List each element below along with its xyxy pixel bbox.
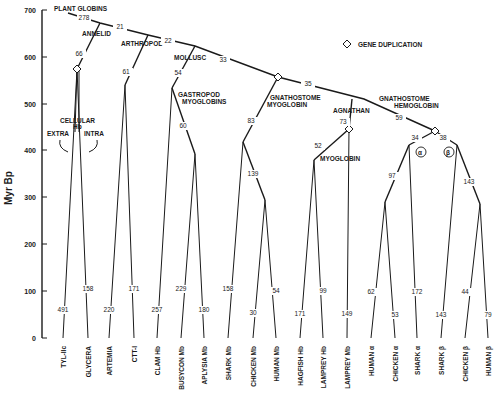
- branch-length: 66: [75, 50, 83, 57]
- leaf-label: CTT-I: [131, 346, 138, 362]
- y-tick-label: 400: [24, 147, 36, 154]
- y-tick-label: 500: [24, 101, 36, 108]
- leaf-label: SHARK α: [414, 346, 421, 375]
- y-axis-title: Myr Bp: [3, 171, 14, 205]
- leaf-branch-length: 257: [152, 306, 163, 313]
- leaf-branch-length: 220: [104, 306, 115, 313]
- leaf-label: CLAM Hb: [154, 346, 161, 375]
- branch-length: 52: [314, 142, 322, 149]
- leaf-label: CHICKEN Mb: [250, 346, 257, 387]
- clade-label-extra: EXTRA: [47, 130, 69, 137]
- clade-label-gh-1: GNATHOSTOME: [379, 95, 430, 102]
- branch-length: 21: [116, 23, 124, 30]
- leaf-label: ARTEMIA: [106, 346, 113, 376]
- leaf-branch-length: 79: [484, 311, 492, 318]
- leaf-label: CHICKEN α: [392, 346, 399, 381]
- clade-label-gastropod-2: MYOGLOBINS: [182, 98, 227, 105]
- leaf-label: LAMPREY Hb: [320, 346, 327, 388]
- branch-length: 35: [304, 80, 312, 87]
- clade-label-intra: INTRA: [84, 130, 104, 137]
- clade-labels: PLANT GLOBINSANNELIDARTHROPODMOLLUSCGAST…: [47, 5, 450, 162]
- clade-label-mollusc: MOLLUSC: [174, 54, 206, 61]
- branch-length: 143: [464, 178, 475, 185]
- y-tick-label: 100: [24, 288, 36, 295]
- legend-label: GENE DUPLICATION: [358, 41, 422, 48]
- clade-label-myoglobin: MYOGLOBIN: [320, 155, 360, 162]
- leaf-branch-length: 44: [461, 288, 469, 295]
- phylogenetic-tree-figure: 7006005004003002001000 Myr Bp GENE DUPLI…: [0, 0, 496, 398]
- y-tick-label: 700: [24, 7, 36, 14]
- leaf-branch-length: 53: [391, 311, 399, 318]
- clade-label-gm-2: MYOGLOBIN: [267, 101, 307, 108]
- branch-length: 60: [179, 122, 187, 129]
- clade-label-gh-2: HEMOGLOBIN: [394, 102, 439, 109]
- branch-length: 139: [248, 170, 259, 177]
- clade-label-annelid: ANNELID: [82, 30, 111, 37]
- leaf-label: TYL-IIc: [60, 346, 67, 368]
- y-tick-label: 200: [24, 241, 36, 248]
- y-tick-label: 300: [24, 194, 36, 201]
- leaf-branch-length: 229: [176, 285, 187, 292]
- branch-length: 83: [247, 117, 255, 124]
- clade-label-gm-1: GNATHOSTOME: [270, 94, 321, 101]
- branch-length: 97: [388, 172, 396, 179]
- branch-length: 33: [219, 56, 227, 63]
- leaf-label: BUSYCON Mb: [178, 346, 185, 390]
- leaf-branch-length: 180: [199, 306, 210, 313]
- leaf-label: HUMAN Mb: [273, 346, 280, 381]
- diamond-icon: [431, 127, 439, 135]
- branch-length: 61: [122, 68, 130, 75]
- y-tick-label: 600: [24, 54, 36, 61]
- leaf-branch-length: 99: [319, 287, 327, 294]
- legend: GENE DUPLICATION: [343, 40, 422, 48]
- y-axis: 7006005004003002001000 Myr Bp: [3, 7, 47, 342]
- leaf-branch-length: 143: [436, 311, 447, 318]
- leaf-branch-length: 54: [272, 287, 280, 294]
- leaf-label: GLYCERA: [85, 346, 92, 377]
- branch-length: 73: [339, 118, 347, 125]
- branch-length: 278: [79, 14, 90, 21]
- leaf-branch-length: 172: [412, 288, 423, 295]
- branch-length: 54: [174, 69, 182, 76]
- clade-label-alpha: α: [418, 149, 422, 156]
- leaf-label: HAGFISH Hb: [297, 346, 304, 386]
- clade-label-arthropod: ARTHROPOD: [121, 40, 163, 47]
- branch-length: 22: [164, 37, 172, 44]
- leaf-branch-length: 149: [342, 310, 353, 317]
- leaf-branch-length: 491: [58, 306, 69, 313]
- leaf-label: SHARK Mb: [225, 346, 232, 380]
- leaf-branch-length: 158: [83, 285, 94, 292]
- branch-length: 34: [411, 134, 419, 141]
- clade-label-agnathan: AGNATHAN: [333, 107, 370, 114]
- leaf-branch-length: 171: [295, 310, 306, 317]
- leaf-branch-length: 158: [223, 285, 234, 292]
- clade-label-gastropod-1: GASTROPOD: [178, 91, 220, 98]
- leaf-label: HUMAN α: [368, 346, 375, 376]
- diamond-icon: [73, 65, 81, 73]
- leaf-label: SHARK β: [438, 346, 446, 375]
- leaf-label: APLYSIA Mb: [201, 346, 208, 385]
- diamond-icon: [343, 40, 351, 48]
- leaf-label: CHICKEN β: [462, 346, 470, 381]
- clade-label-cellular-2: Hb: [73, 123, 82, 130]
- y-tick-label: 0: [32, 335, 36, 342]
- leaf-label: LAMPREY Mb: [344, 346, 351, 389]
- leaf-label: HUMAN β: [485, 346, 493, 376]
- branch-length: 38: [439, 134, 447, 141]
- clade-label-plant-globins: PLANT GLOBINS: [54, 5, 108, 12]
- diamond-icon: [274, 73, 282, 81]
- leaf-branch-length: 30: [249, 309, 257, 316]
- clade-label-beta: β: [446, 149, 450, 157]
- leaf-branch-length: 62: [367, 288, 375, 295]
- leaf-branch-length: 171: [129, 285, 140, 292]
- branch-length: 59: [395, 114, 403, 121]
